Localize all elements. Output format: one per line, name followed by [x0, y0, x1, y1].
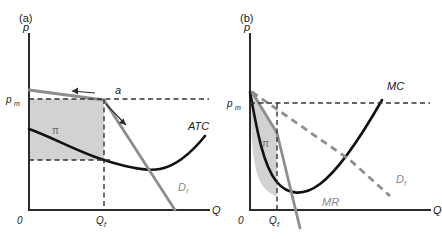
origin-label-b: 0 — [238, 215, 244, 226]
quantity-tick-label-b: Q f — [269, 215, 280, 228]
price-tick-label-b: p m — [226, 98, 241, 111]
marginal-revenue-label-b: MR — [322, 196, 339, 208]
svg-text:m: m — [14, 100, 20, 107]
price-tick-label-a: p m — [5, 94, 20, 107]
panel-b: (b) p Q 0 p m Q f π MC D f MR — [226, 12, 442, 228]
svg-text:p: p — [5, 94, 12, 105]
x-axis-label-a: Q — [212, 204, 221, 216]
svg-text:Q: Q — [96, 215, 104, 226]
svg-text:f: f — [104, 221, 107, 228]
profit-region-a — [29, 99, 104, 160]
x-axis-label-b: Q — [433, 204, 442, 216]
profit-symbol-a: π — [52, 125, 59, 136]
svg-text:p: p — [226, 98, 233, 109]
economics-diagram: (a) p Q 0 p m Q f π a ATC D f — [0, 0, 442, 239]
svg-text:f: f — [277, 221, 280, 228]
shift-arrow-down-a — [106, 104, 126, 125]
svg-text:f: f — [404, 180, 407, 187]
origin-label-a: 0 — [17, 215, 23, 226]
y-axis-label-b: p — [243, 21, 250, 33]
point-a-label: a — [115, 84, 121, 96]
shift-arrow-left-a — [72, 88, 95, 95]
profit-symbol-b: π — [262, 138, 269, 149]
svg-text:f: f — [186, 188, 189, 195]
svg-text:m: m — [235, 104, 241, 111]
panel-a: (a) p Q 0 p m Q f π a ATC D f — [5, 12, 221, 228]
svg-text:Q: Q — [269, 215, 277, 226]
svg-text:D: D — [178, 181, 186, 193]
svg-text:D: D — [396, 173, 404, 185]
y-axis-label-a: p — [22, 21, 29, 33]
figure-canvas: (a) p Q 0 p m Q f π a ATC D f — [0, 0, 442, 239]
firm-demand-label-b: D f — [396, 173, 407, 187]
marginal-cost-label-b: MC — [387, 80, 404, 92]
firm-demand-label-a: D f — [178, 181, 189, 195]
atc-curve-label-a: ATC — [187, 120, 209, 132]
quantity-tick-label-a: Q f — [96, 215, 107, 228]
